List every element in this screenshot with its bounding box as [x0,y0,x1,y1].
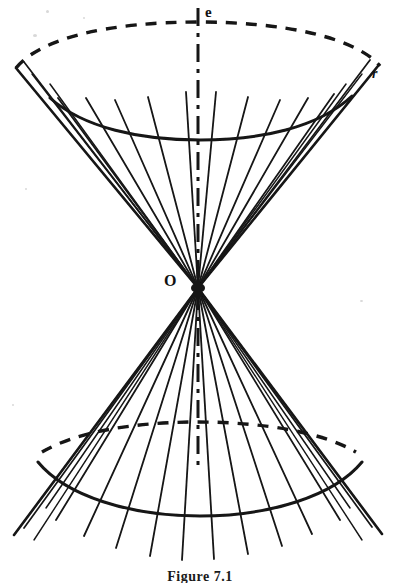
generator-line-outer-right-lower-c [198,288,362,540]
figure-caption: Figure 7.1 [0,568,400,583]
generator-line [84,288,198,536]
generator-line [198,92,216,288]
origin-label-o: O [164,272,176,290]
generator-line [46,288,198,508]
generator-line [198,98,308,288]
generator-line [198,288,350,508]
figure-container: e r O Figure 7.1 [0,0,400,583]
generator-line-outer-right [198,66,378,288]
generator-line-outer-left [16,68,198,288]
generator-label-r: r [372,66,377,82]
axis-label-e: e [205,4,212,21]
apex-vertex [191,283,205,293]
generator-line-outer-left-lower-b [24,288,198,528]
generator-line [186,92,198,288]
generator-line-outer-left-c [32,74,198,288]
generator-line-outer-left-lower-c [34,288,198,540]
double-cone-diagram [0,0,400,583]
generator-line [198,288,312,534]
generator-line-outer-right-lower-b [198,288,372,527]
